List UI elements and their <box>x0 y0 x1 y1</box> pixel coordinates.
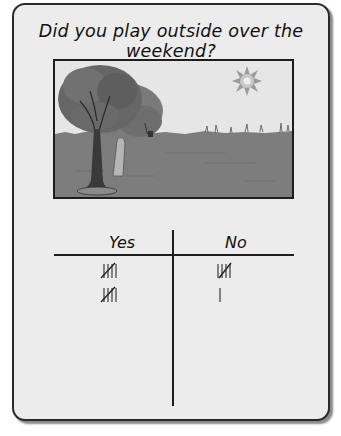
tally-chart: Yes No <box>14 5 328 419</box>
column-divider <box>172 230 174 406</box>
column-header-no: No <box>196 233 276 252</box>
tally-marks-five <box>212 262 236 280</box>
header-rule <box>54 254 294 256</box>
worksheet-card: Did you play outside over the weekend? <box>12 3 330 421</box>
tally-mark-one <box>212 286 236 304</box>
tally-marks-five <box>98 286 122 304</box>
tally-marks-five <box>98 262 122 280</box>
column-header-yes: Yes <box>82 233 162 252</box>
